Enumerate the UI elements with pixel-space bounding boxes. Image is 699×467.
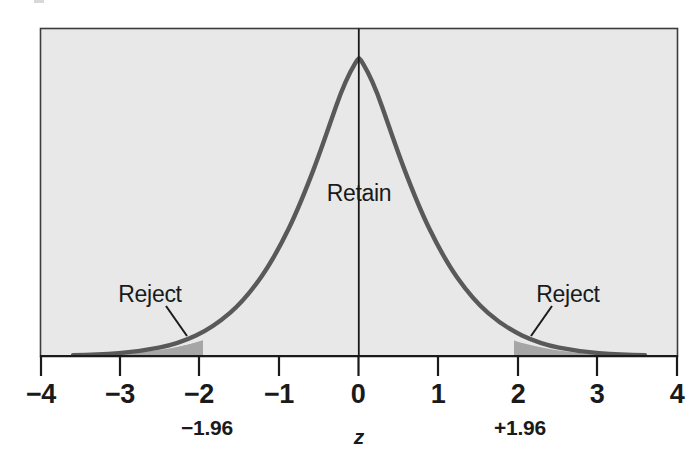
critical-value-label-negative: −1.96 — [181, 417, 233, 438]
x-tick-label--3: −3 — [105, 381, 135, 408]
right-reject-region-label: Reject — [536, 283, 599, 306]
normal-distribution-figure: Retain Reject Reject −4 −3 −2 −1 0 1 2 3… — [0, 0, 699, 467]
x-tick-label-3: 3 — [590, 381, 605, 408]
retain-region-label: Retain — [327, 182, 392, 205]
x-tick-label--4: −4 — [26, 381, 56, 408]
x-tick-label-2: 2 — [511, 381, 526, 408]
critical-value-label-positive: +1.96 — [494, 417, 546, 438]
x-tick-label-0: 0 — [351, 381, 366, 408]
x-axis-ticks — [41, 356, 677, 376]
x-tick-label-4: 4 — [670, 381, 685, 408]
x-axis-title: z — [354, 426, 365, 447]
x-tick-label-1: 1 — [431, 381, 446, 408]
x-tick-label--2: −2 — [184, 381, 214, 408]
x-tick-label--1: −1 — [264, 381, 294, 408]
left-reject-region-label: Reject — [118, 283, 181, 306]
